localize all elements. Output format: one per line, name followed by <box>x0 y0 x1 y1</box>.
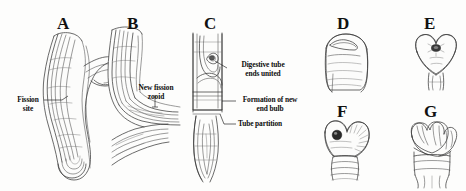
annotation-tube-partition: Tube partition <box>238 120 282 129</box>
panel-label-g: G <box>424 103 437 120</box>
panel-label-b: B <box>127 15 138 32</box>
panel-label-c: C <box>204 15 216 32</box>
panel-label-d: D <box>337 15 349 32</box>
annotation-digestive-tube-ends-united: Digestive tubeends united <box>228 61 298 78</box>
panel-d-drawing <box>325 34 368 92</box>
panel-label-f: F <box>337 103 347 120</box>
annotation-formation-of-new-end-bulb: Formation of newend bulb <box>232 96 308 113</box>
annotation-new-fission-zooid: New fissionzooid <box>128 84 184 101</box>
panel-label-e: E <box>424 15 435 32</box>
panel-label-a: A <box>57 15 69 32</box>
annotation-fission-site: Fissionsite <box>6 96 50 113</box>
